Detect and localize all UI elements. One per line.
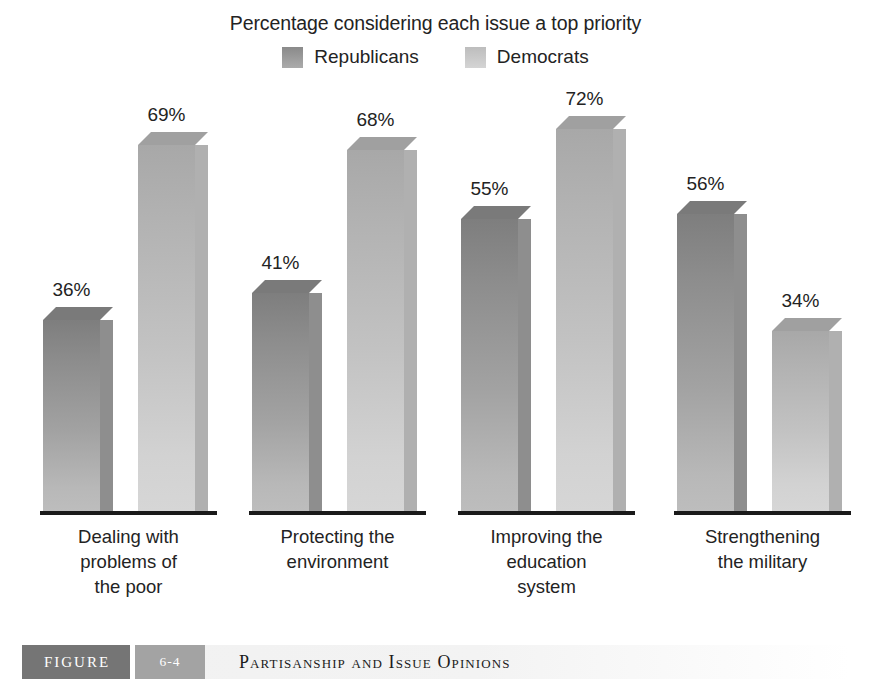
bar-value-label: 36% <box>29 279 114 301</box>
caption-figure-word: FIGURE <box>22 645 130 679</box>
category-label-line: Protecting the <box>249 524 426 549</box>
category-label: Improving theeducationsystem <box>458 524 635 599</box>
bar-side-face <box>195 145 208 511</box>
bar-top-face <box>461 206 531 219</box>
bar-value-label: 34% <box>758 290 843 312</box>
plot-area: 36%69%41%68%55%72%56%34% <box>0 90 871 515</box>
bar-value-label: 72% <box>542 88 627 110</box>
caption-figure-title: Partisanship and Issue Opinions <box>205 645 849 679</box>
group-baseline <box>40 511 217 515</box>
bar-republicans: 56% <box>677 214 734 511</box>
bar-front-face <box>43 320 100 511</box>
bar-side-face <box>734 214 747 511</box>
category-label: Protecting theenvironment <box>249 524 426 574</box>
bar-value-label: 55% <box>447 178 532 200</box>
bar-top-face <box>556 116 626 129</box>
bar-front-face <box>252 293 309 511</box>
bar-value-label: 41% <box>238 252 323 274</box>
category-label-line: environment <box>249 549 426 574</box>
category-label-line: the poor <box>40 574 217 599</box>
bar-side-face <box>404 150 417 511</box>
bar-democrats: 69% <box>138 145 195 511</box>
bar-republicans: 41% <box>252 293 309 511</box>
category-label-line: system <box>458 574 635 599</box>
chart-legend: Republicans Democrats <box>0 46 871 68</box>
figure-caption: FIGURE 6-4 Partisanship and Issue Opinio… <box>22 645 849 679</box>
bar-front-face <box>772 331 829 511</box>
democrats-swatch-icon <box>465 47 486 68</box>
bar-top-face <box>772 318 842 331</box>
bar-side-face <box>309 293 322 511</box>
group-baseline <box>249 511 426 515</box>
bar-side-face <box>613 129 626 511</box>
bar-front-face <box>461 219 518 511</box>
category-label: Strengtheningthe military <box>674 524 851 574</box>
bar-group: 41%68% <box>249 90 426 515</box>
category-label-line: Improving the <box>458 524 635 549</box>
bar-republicans: 36% <box>43 320 100 511</box>
bar-top-face <box>677 201 747 214</box>
legend-label-democrats: Democrats <box>497 46 589 68</box>
bar-side-face <box>829 331 842 511</box>
chart-title: Percentage considering each issue a top … <box>0 12 871 35</box>
category-label: Dealing withproblems ofthe poor <box>40 524 217 599</box>
caption-figure-number: 6-4 <box>135 645 205 679</box>
category-label-line: the military <box>674 549 851 574</box>
legend-item-democrats: Democrats <box>465 46 589 68</box>
bar-democrats: 34% <box>772 331 829 511</box>
bar-value-label: 68% <box>333 109 418 131</box>
bar-top-face <box>347 137 417 150</box>
bar-front-face <box>138 145 195 511</box>
category-label-line: Strengthening <box>674 524 851 549</box>
legend-item-republicans: Republicans <box>282 46 419 68</box>
bar-democrats: 68% <box>347 150 404 511</box>
bar-front-face <box>677 214 734 511</box>
bar-side-face <box>518 219 531 511</box>
category-label-line: problems of <box>40 549 217 574</box>
bar-group: 55%72% <box>458 90 635 515</box>
bar-republicans: 55% <box>461 219 518 511</box>
bar-value-label: 56% <box>663 173 748 195</box>
republicans-swatch-icon <box>282 47 303 68</box>
bar-democrats: 72% <box>556 129 613 511</box>
bar-side-face <box>100 320 113 511</box>
legend-label-republicans: Republicans <box>314 46 419 68</box>
bar-top-face <box>43 307 113 320</box>
bar-top-face <box>138 132 208 145</box>
category-label-line: Dealing with <box>40 524 217 549</box>
bar-front-face <box>347 150 404 511</box>
bar-group: 56%34% <box>674 90 851 515</box>
bar-front-face <box>556 129 613 511</box>
bar-top-face <box>252 280 322 293</box>
group-baseline <box>458 511 635 515</box>
figure-panel: Percentage considering each issue a top … <box>0 0 871 697</box>
bar-group: 36%69% <box>40 90 217 515</box>
group-baseline <box>674 511 851 515</box>
category-label-line: education <box>458 549 635 574</box>
bar-value-label: 69% <box>124 104 209 126</box>
